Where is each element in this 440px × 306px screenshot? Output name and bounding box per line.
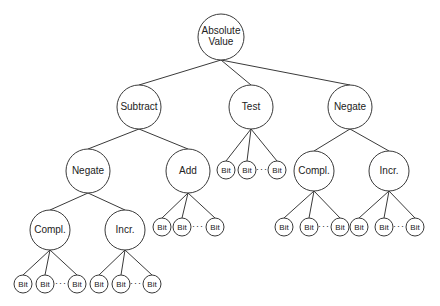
bit-group-compl_l: BitBitBit··· (14, 250, 86, 293)
node-incr_r: Incr. (369, 151, 409, 191)
node-test: Test (229, 85, 273, 129)
bit-label: Bit (116, 280, 126, 289)
bit-node: Bit (36, 275, 54, 293)
bit-label: Bit (157, 223, 167, 232)
node-incr_l: Incr. (105, 210, 145, 250)
edge-subtract-add (139, 129, 188, 149)
bit-label: Bit (177, 223, 187, 232)
bit-edge (314, 191, 340, 218)
bit-node: Bit (275, 218, 293, 236)
bit-label: Bit (410, 223, 420, 232)
node-label: Compl. (34, 224, 66, 235)
bit-group-incr_l: BitBitBit··· (90, 250, 161, 293)
bit-node: Bit (173, 218, 191, 236)
node-negate_r: Negate (328, 85, 372, 129)
bit-label: Bit (147, 280, 157, 289)
bit-edge (125, 250, 152, 275)
bit-node: Bit (90, 275, 108, 293)
bit-node: Bit (112, 275, 130, 293)
bit-group-add: BitBitBit··· (153, 193, 224, 236)
bit-label: Bit (40, 280, 50, 289)
node-abs: AbsoluteValue (198, 14, 244, 60)
node-negate_l: Negate (66, 149, 110, 193)
edge-negate_l-compl_l (50, 193, 88, 210)
bit-node: Bit (300, 218, 318, 236)
bit-edge (182, 193, 188, 218)
node-label: Subtract (120, 101, 157, 112)
tree-canvas: AbsoluteValueSubtractTestNegateNegateAdd… (0, 0, 440, 306)
node-label: Add (179, 165, 197, 176)
edge-negate_r-compl_r (314, 129, 350, 151)
bit-label: Bit (242, 166, 252, 175)
ellipsis: ··· (256, 164, 268, 174)
node-label: Compl. (298, 165, 330, 176)
edge-negate_r-incr_r (350, 129, 389, 151)
ellipsis: ··· (393, 221, 405, 231)
bit-label: Bit (335, 223, 345, 232)
edge-negate_l-incr_l (88, 193, 125, 210)
node-compl_l: Compl. (30, 210, 70, 250)
bit-group-test: BitBitBit··· (217, 129, 286, 179)
bit-node: Bit (268, 161, 286, 179)
node-label: Incr. (380, 165, 399, 176)
bit-label: Bit (272, 166, 282, 175)
node-label: Negate (334, 101, 367, 112)
bit-label: Bit (210, 223, 220, 232)
node-label: Absolute (202, 25, 241, 36)
bit-node: Bit (68, 275, 86, 293)
bit-group-incr_r: BitBitBit··· (350, 191, 424, 236)
ellipsis: ··· (192, 221, 204, 231)
bit-node: Bit (153, 218, 171, 236)
bit-edge (389, 191, 415, 218)
bit-node: Bit (217, 161, 235, 179)
bit-node: Bit (350, 218, 368, 236)
edge-subtract-negate_l (88, 129, 139, 149)
ellipsis: ··· (318, 221, 330, 231)
node-label: Negate (72, 165, 105, 176)
edge-abs-subtract (139, 60, 221, 85)
bit-edge (251, 129, 277, 161)
bit-edge (188, 193, 215, 218)
bit-label: Bit (304, 223, 314, 232)
bit-group-compl_r: BitBitBit··· (275, 191, 349, 236)
bit-node: Bit (331, 218, 349, 236)
node-compl_r: Compl. (294, 151, 334, 191)
ellipsis: ··· (130, 278, 142, 288)
bit-node: Bit (143, 275, 161, 293)
node-subtract: Subtract (117, 85, 161, 129)
bit-node: Bit (206, 218, 224, 236)
node-label: Test (242, 101, 261, 112)
bit-edge (50, 250, 77, 275)
absolute-value-tree-diagram: AbsoluteValueSubtractTestNegateNegateAdd… (0, 0, 440, 306)
bit-label: Bit (18, 280, 28, 289)
bit-node: Bit (238, 161, 256, 179)
bit-edge (162, 193, 188, 218)
bit-label: Bit (279, 223, 289, 232)
edge-abs-test (221, 60, 251, 85)
bit-label: Bit (354, 223, 364, 232)
ellipsis: ··· (55, 278, 67, 288)
bit-label: Bit (221, 166, 231, 175)
bit-node: Bit (406, 218, 424, 236)
nodes-layer: AbsoluteValueSubtractTestNegateNegateAdd… (30, 14, 409, 250)
node-label: Incr. (116, 224, 135, 235)
node-label: Value (209, 36, 234, 47)
edge-abs-negate_r (221, 60, 350, 85)
bit-label: Bit (379, 223, 389, 232)
node-add: Add (166, 149, 210, 193)
bit-node: Bit (14, 275, 32, 293)
bit-label: Bit (94, 280, 104, 289)
bit-label: Bit (72, 280, 82, 289)
bit-node: Bit (375, 218, 393, 236)
